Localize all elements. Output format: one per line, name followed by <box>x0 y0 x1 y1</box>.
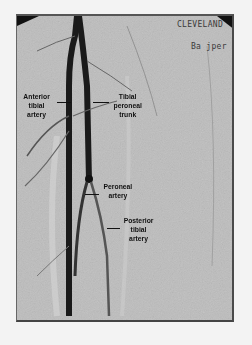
angiogram-image <box>17 16 234 322</box>
label-anterior-tibial: Anterior tibial artery <box>23 92 49 119</box>
pointer-line <box>85 194 99 195</box>
angiogram-frame: CLEVELAND Ba jper Anterior tibial artery… <box>16 14 234 322</box>
institution-text: CLEVELAND <box>177 20 223 29</box>
patient-text: Ba jper <box>191 42 227 51</box>
label-posterior-tibial: Posterior tibial artery <box>124 216 154 243</box>
label-tibial-peroneal-trunk: Tibial peroneal trunk <box>114 92 142 119</box>
pointer-line <box>93 102 109 103</box>
pointer-line <box>57 102 71 103</box>
pointer-line <box>107 228 120 229</box>
label-peroneal: Peroneal artery <box>104 182 133 200</box>
